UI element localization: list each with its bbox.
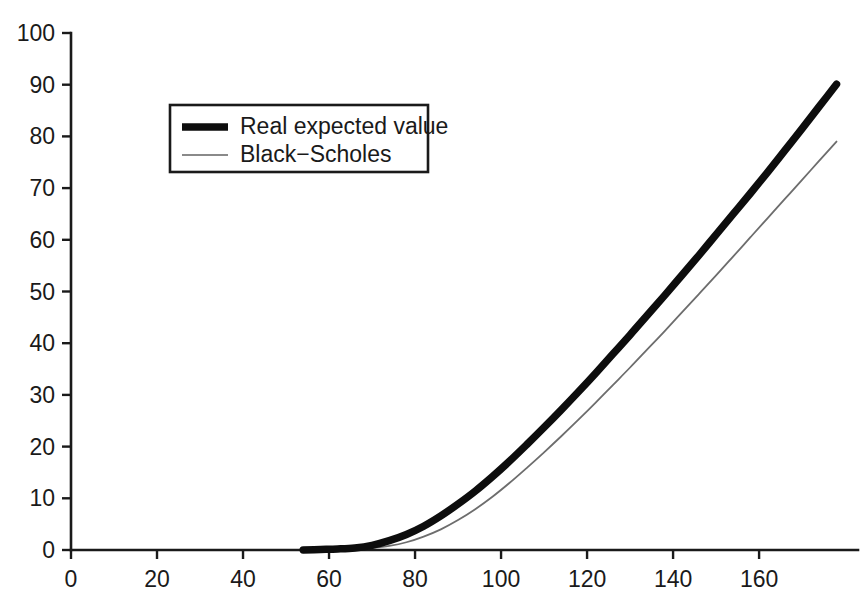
y-tick-label: 100: [17, 20, 55, 46]
x-axis-ticks: 020406080100120140160: [65, 550, 779, 592]
x-tick-label: 100: [482, 566, 520, 592]
x-tick-label: 160: [740, 566, 778, 592]
y-tick-label: 70: [29, 175, 55, 201]
chart-figure: 0102030405060708090100 02040608010012014…: [0, 0, 863, 610]
x-tick-label: 20: [144, 566, 170, 592]
legend: Real expected value Black−Scholes: [170, 105, 448, 172]
y-tick-label: 50: [29, 279, 55, 305]
x-tick-label: 0: [65, 566, 78, 592]
y-tick-label: 20: [29, 434, 55, 460]
x-tick-label: 60: [316, 566, 342, 592]
y-axis-ticks: 0102030405060708090100: [17, 20, 71, 563]
y-tick-label: 30: [29, 382, 55, 408]
y-tick-label: 10: [29, 485, 55, 511]
y-tick-label: 0: [42, 537, 55, 563]
line-chart-canvas: 0102030405060708090100 02040608010012014…: [0, 0, 863, 610]
legend-label-real-expected-value: Real expected value: [240, 113, 448, 139]
legend-label-black-scholes: Black−Scholes: [240, 141, 392, 167]
x-tick-label: 80: [402, 566, 428, 592]
y-tick-label: 90: [29, 72, 55, 98]
x-tick-label: 120: [568, 566, 606, 592]
x-tick-label: 40: [230, 566, 256, 592]
y-tick-label: 60: [29, 227, 55, 253]
y-tick-label: 40: [29, 330, 55, 356]
series-line-black-scholes: [303, 142, 836, 550]
y-tick-label: 80: [29, 123, 55, 149]
x-tick-label: 140: [654, 566, 692, 592]
